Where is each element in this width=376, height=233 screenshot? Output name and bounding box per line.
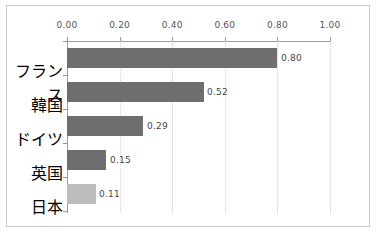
category-label-korea: 韓国 (31, 96, 63, 115)
gridline-1.00 (330, 41, 331, 213)
plot-area (67, 41, 330, 213)
value-label-uk: 0.15 (110, 155, 131, 165)
bar-chart-figure: 0.00 0.20 0.40 0.60 0.80 1.00 フランス 韓国 ドイ… (0, 0, 376, 233)
xtick-label-2: 0.40 (162, 20, 183, 30)
value-label-japan: 0.11 (99, 189, 120, 199)
bar-korea[interactable] (67, 82, 204, 102)
bar-uk[interactable] (67, 150, 106, 170)
category-label-japan-wrap: 日本 (0, 194, 63, 218)
xtick-label-1: 0.20 (109, 20, 130, 30)
value-label-germany: 0.29 (147, 121, 168, 131)
xtick-label-3: 0.60 (214, 20, 235, 30)
category-label-uk-wrap: 英国 (0, 160, 63, 184)
category-label-japan: 日本 (31, 198, 63, 217)
category-label-germany-wrap: ドイツ (0, 126, 63, 150)
gridline-0.80 (277, 41, 278, 213)
bar-japan[interactable] (67, 184, 96, 204)
category-label-germany: ドイツ (15, 130, 63, 149)
value-label-korea: 0.52 (207, 87, 228, 97)
bar-france[interactable] (67, 48, 277, 68)
xtick-label-4: 0.80 (267, 20, 288, 30)
xtick-label-0: 0.00 (57, 20, 78, 30)
category-label-uk: 英国 (31, 164, 63, 183)
value-label-france: 0.80 (281, 53, 302, 63)
xtick-label-5: 1.00 (320, 20, 341, 30)
bar-germany[interactable] (67, 116, 143, 136)
category-label-korea-wrap: 韓国 (0, 92, 63, 116)
